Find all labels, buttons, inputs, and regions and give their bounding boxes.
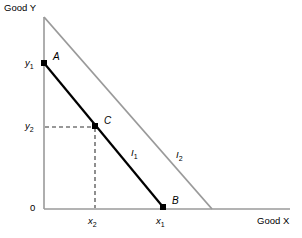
budget-constraint-diagram: Good Y Good X 0 y1 y2 x2 x1 A C B I1 I2 (0, 0, 302, 238)
chart-canvas (0, 0, 302, 238)
point-marker-b (160, 204, 166, 210)
point-label-c: C (104, 116, 111, 126)
x-tick-x1-sub: 1 (161, 221, 165, 228)
y-tick-label-y2: y2 (25, 121, 34, 133)
x-tick-x2-sub: 2 (93, 221, 97, 228)
y-tick-y1-sub: 1 (30, 63, 34, 70)
point-label-a: A (53, 52, 60, 62)
curve-label-i1: I1 (131, 148, 138, 160)
curve-i1-sub: 1 (134, 153, 138, 160)
point-label-b: B (172, 196, 179, 206)
x-axis-title: Good X (257, 216, 289, 226)
x-tick-label-x2: x2 (88, 216, 97, 228)
x-tick-label-x1: x1 (156, 216, 165, 228)
y-tick-label-y1: y1 (25, 58, 34, 70)
point-marker-c (92, 123, 98, 129)
y-tick-y2-sub: 2 (30, 126, 34, 133)
budget-line-i2 (44, 17, 212, 209)
curve-i2-sub: 2 (179, 155, 183, 162)
y-axis-title: Good Y (4, 3, 36, 13)
origin-label: 0 (30, 203, 35, 213)
point-marker-a (41, 60, 47, 66)
curve-label-i2: I2 (176, 150, 183, 162)
